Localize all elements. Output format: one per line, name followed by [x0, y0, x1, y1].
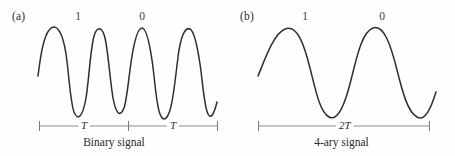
panel-a-interval-ruler	[0, 0, 228, 156]
panel-b-caption: 4-ary signal	[228, 136, 455, 148]
panel-a-caption: Binary signal	[0, 136, 228, 148]
signal-waveform-figure: (a) 1 0 T T Binary signal (b) 1 0	[0, 0, 455, 156]
panel-4ary-signal: (b) 1 0 2T 4-ary signal	[228, 0, 455, 156]
panel-binary-signal: (a) 1 0 T T Binary signal	[0, 0, 228, 156]
panel-a-interval-label-first: T	[78, 119, 90, 131]
panel-a-interval-label-second: T	[167, 119, 179, 131]
panel-b-interval-ruler	[228, 0, 455, 156]
panel-b-interval-label: 2T	[336, 119, 354, 131]
